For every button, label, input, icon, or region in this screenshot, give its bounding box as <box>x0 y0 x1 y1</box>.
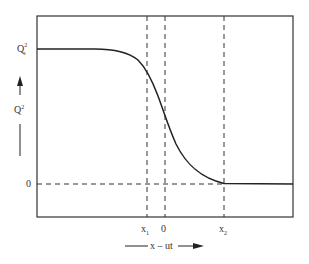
y-arrow-head-icon <box>17 76 23 86</box>
x-tick-x1-sub: 1 <box>146 230 149 236</box>
y-tick-qs2-sub: s <box>23 50 25 56</box>
diagram-canvas <box>0 0 309 264</box>
y-tick-qs2: Q2s <box>17 43 26 56</box>
x-tick-x2: x2 <box>219 224 227 236</box>
x-tick-zero: 0 <box>161 224 166 234</box>
x-tick-x1: x1 <box>141 224 149 236</box>
y-axis-label-sup: 2 <box>21 104 24 110</box>
x-tick-x2-sub: 2 <box>224 230 227 236</box>
x-arrow-head-icon <box>193 243 204 249</box>
x-axis-label: x – ut <box>150 241 173 251</box>
y-tick-qs2-sup: 2 <box>24 42 27 48</box>
y-axis-label: Q2 <box>14 104 24 115</box>
y-tick-zero: 0 <box>26 179 31 189</box>
